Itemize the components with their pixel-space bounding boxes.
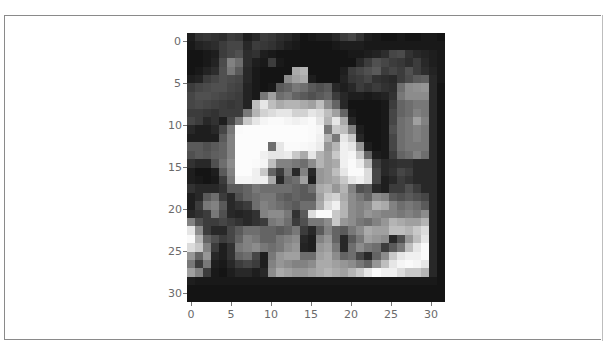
- heatmap-cell: [381, 268, 389, 276]
- heatmap-cell: [219, 92, 227, 100]
- heatmap-cell: [219, 75, 227, 83]
- heatmap-cell: [413, 134, 421, 142]
- heatmap-cell: [276, 201, 284, 209]
- heatmap-cell: [211, 151, 219, 159]
- heatmap-cell: [405, 58, 413, 66]
- heatmap-cell: [372, 134, 380, 142]
- heatmap-cell: [252, 226, 260, 234]
- heatmap-cell: [211, 92, 219, 100]
- heatmap-cell: [340, 168, 348, 176]
- heatmap-cell: [364, 58, 372, 66]
- heatmap-cell: [308, 210, 316, 218]
- heatmap-cell: [235, 50, 243, 58]
- x-tick-mark: [311, 302, 312, 306]
- heatmap-cell: [429, 83, 437, 91]
- heatmap-cell: [276, 235, 284, 243]
- heatmap-cell: [429, 277, 437, 285]
- heatmap-cell: [211, 125, 219, 133]
- heatmap-cell: [187, 117, 195, 125]
- heatmap-cell: [356, 75, 364, 83]
- heatmap-cell: [437, 168, 445, 176]
- heatmap-cell: [413, 285, 421, 293]
- heatmap-cell: [260, 226, 268, 234]
- heatmap-cell: [389, 109, 397, 117]
- heatmap-cell: [421, 268, 429, 276]
- heatmap-cell: [187, 243, 195, 251]
- heatmap-cell: [203, 294, 211, 302]
- heatmap-cell: [356, 260, 364, 268]
- heatmap-cell: [243, 168, 251, 176]
- heatmap-cell: [276, 75, 284, 83]
- heatmap-cell: [324, 252, 332, 260]
- heatmap-cell: [332, 176, 340, 184]
- heatmap-cell: [227, 151, 235, 159]
- heatmap-cell: [316, 168, 324, 176]
- heatmap-cell: [372, 92, 380, 100]
- heatmap-cell: [324, 67, 332, 75]
- heatmap-cell: [235, 41, 243, 49]
- heatmap-cell: [405, 268, 413, 276]
- heatmap-cell: [372, 268, 380, 276]
- heatmap-cell: [429, 41, 437, 49]
- heatmap-cell: [227, 176, 235, 184]
- heatmap-cell: [316, 243, 324, 251]
- heatmap-cell: [195, 294, 203, 302]
- heatmap-cell: [356, 168, 364, 176]
- heatmap-cell: [219, 100, 227, 108]
- heatmap-cell: [372, 142, 380, 150]
- heatmap-cell: [421, 176, 429, 184]
- heatmap-cell: [405, 193, 413, 201]
- heatmap-cell: [300, 193, 308, 201]
- heatmap-cell: [397, 268, 405, 276]
- heatmap-cell: [324, 100, 332, 108]
- heatmap-cell: [308, 159, 316, 167]
- heatmap-cell: [292, 83, 300, 91]
- heatmap-cell: [276, 83, 284, 91]
- heatmap-cell: [316, 252, 324, 260]
- heatmap-cell: [195, 226, 203, 234]
- heatmap-cell: [276, 50, 284, 58]
- heatmap-cell: [364, 252, 372, 260]
- heatmap-cell: [276, 243, 284, 251]
- heatmap-cell: [308, 201, 316, 209]
- heatmap-cell: [332, 67, 340, 75]
- heatmap-cell: [260, 109, 268, 117]
- heatmap-cell: [324, 125, 332, 133]
- heatmap-cell: [340, 50, 348, 58]
- heatmap-cell: [292, 235, 300, 243]
- heatmap-cell: [308, 252, 316, 260]
- heatmap-cell: [389, 176, 397, 184]
- heatmap-cell: [235, 134, 243, 142]
- heatmap-cell: [316, 67, 324, 75]
- heatmap-cell: [348, 58, 356, 66]
- heatmap-cell: [260, 159, 268, 167]
- heatmap-cell: [437, 142, 445, 150]
- heatmap-cell: [413, 277, 421, 285]
- figure-frame-right-edge: [602, 15, 603, 341]
- heatmap-cell: [405, 134, 413, 142]
- heatmap-cell: [268, 100, 276, 108]
- heatmap-cell: [211, 235, 219, 243]
- heatmap-cell: [300, 260, 308, 268]
- heatmap-cell: [292, 117, 300, 125]
- heatmap-cell: [405, 159, 413, 167]
- heatmap-cell: [235, 184, 243, 192]
- heatmap-cell: [284, 201, 292, 209]
- heatmap-cell: [227, 235, 235, 243]
- heatmap-cell: [340, 285, 348, 293]
- heatmap-cell: [389, 218, 397, 226]
- heatmap-cell: [372, 260, 380, 268]
- heatmap-cell: [372, 109, 380, 117]
- heatmap-cell: [235, 109, 243, 117]
- y-tick-mark: [183, 41, 187, 42]
- heatmap-cell: [195, 218, 203, 226]
- heatmap-cell: [227, 142, 235, 150]
- heatmap-cell: [276, 58, 284, 66]
- x-tick-mark: [231, 302, 232, 306]
- heatmap-cell: [268, 75, 276, 83]
- heatmap-cell: [381, 235, 389, 243]
- heatmap-cell: [324, 58, 332, 66]
- heatmap-cell: [372, 184, 380, 192]
- heatmap-cell: [316, 41, 324, 49]
- heatmap-cell: [243, 109, 251, 117]
